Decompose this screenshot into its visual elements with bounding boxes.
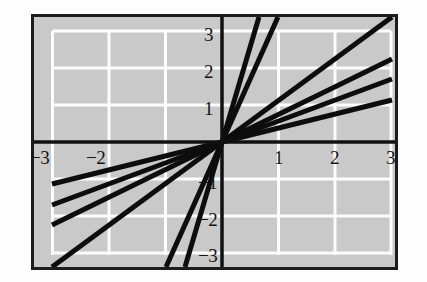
y-tick-label--2: −2 <box>198 210 217 229</box>
x-tick-label-2: 2 <box>330 148 339 167</box>
y-tick-label--3: −3 <box>198 246 217 265</box>
x-tick-label-3: 3 <box>386 148 395 167</box>
y-tick-label--1: −1 <box>198 173 217 192</box>
y-tick-label-2: 2 <box>204 62 213 81</box>
x-tick-label--3: −3 <box>30 148 49 167</box>
figure-canvas: −3 −2 1 2 3 3 2 1 −1 −2 −3 <box>0 0 427 282</box>
y-tick-label-1: 1 <box>204 99 213 118</box>
y-tick-label-3: 3 <box>204 25 213 44</box>
figure-frame: −3 −2 1 2 3 3 2 1 −1 −2 −3 <box>31 14 398 270</box>
x-tick-label-1: 1 <box>274 148 283 167</box>
x-tick-label--2: −2 <box>86 148 105 167</box>
